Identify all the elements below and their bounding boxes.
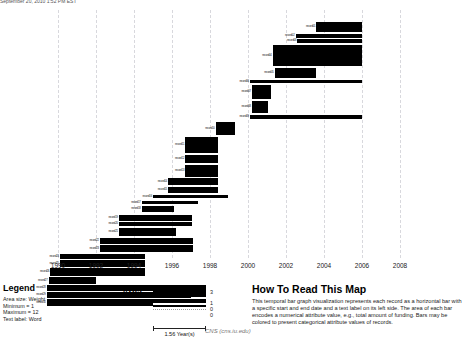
bar-label-11: record11	[175, 143, 184, 146]
bar-label-12: record12	[175, 157, 184, 160]
bar-label-20: record20	[108, 222, 117, 225]
bar-21[interactable]	[119, 228, 176, 236]
bar-label-23: record23	[89, 247, 98, 250]
how-to-read-body: This temporal bar graph visualization re…	[252, 298, 466, 326]
bar-label-1: record01	[306, 25, 315, 28]
bar-label-19: record19	[108, 216, 117, 219]
axis-tick-2000: 2000	[241, 262, 255, 269]
legend-line-minimum: Minimum = 1	[3, 303, 118, 310]
axis-tick-1994: 1994	[127, 262, 141, 269]
bar-label-14: record14	[158, 180, 167, 183]
chart-plot-area: record01record02record03record04record05…	[0, 10, 469, 258]
grid-line-2008	[400, 10, 402, 258]
bar-label-2: record02	[285, 34, 294, 37]
area-value-0b: 0	[210, 313, 213, 318]
grid-line-2006	[362, 10, 364, 258]
header-timestamp-strip: September 20, 2010 1:52 PM EST	[0, 0, 234, 8]
bar-label-15: record15	[158, 188, 167, 191]
bar-label-8: record08	[241, 105, 250, 108]
bar-17[interactable]	[142, 201, 198, 204]
bar-label-9: record09	[239, 115, 248, 118]
area-legend-scale: 1.56 Year(s)	[153, 326, 206, 337]
bar-6[interactable]	[250, 80, 362, 83]
x-axis: 1990199219941996199820002002200420062008	[0, 258, 469, 274]
grid-line-1998	[210, 10, 212, 258]
bar-22[interactable]	[100, 238, 193, 244]
grid-line-2000	[248, 10, 250, 258]
bar-label-5: record05	[264, 71, 273, 74]
bar-7[interactable]	[252, 85, 271, 99]
axis-tick-2008: 2008	[393, 262, 407, 269]
axis-tick-2004: 2004	[317, 262, 331, 269]
bar-20[interactable]	[119, 222, 192, 226]
bar-label-16: record16	[143, 195, 152, 198]
bar-3[interactable]	[297, 39, 362, 43]
bar-13[interactable]	[185, 165, 217, 177]
credit-text: CNS (cns.iu.edu)	[205, 328, 251, 334]
bar-23[interactable]	[100, 245, 193, 252]
bar-label-6: record06	[239, 80, 248, 83]
area-legend-title: Area	[122, 287, 142, 297]
how-to-read-title: How To Read This Map	[252, 283, 466, 295]
header-timestamp: September 20, 2010 1:52 PM EST	[0, 0, 234, 4]
area-swatch-3	[153, 285, 206, 297]
legend-line-text-label: Text label: Word	[3, 316, 118, 323]
bar-label-27: record27	[38, 279, 47, 282]
axis-tick-1992: 1992	[89, 262, 103, 269]
axis-tick-1990: 1990	[51, 262, 65, 269]
bar-label-18: record18	[131, 207, 140, 210]
bar-label-13: record13	[175, 169, 184, 172]
bar-18[interactable]	[142, 206, 174, 212]
bar-4[interactable]	[273, 45, 362, 66]
area-swatch-0b	[153, 309, 206, 310]
bar-label-21: record21	[108, 230, 117, 233]
area-swatch-1	[153, 299, 206, 303]
axis-tick-2006: 2006	[355, 262, 369, 269]
bar-label-7: record07	[241, 90, 250, 93]
area-swatch-0a	[153, 305, 206, 307]
grid-line-1992	[96, 10, 98, 258]
area-value-3: 3	[210, 290, 213, 295]
scale-caption: 1.56 Year(s)	[153, 331, 206, 337]
bar-5[interactable]	[275, 68, 317, 78]
bar-16[interactable]	[153, 195, 228, 198]
bar-1[interactable]	[316, 22, 362, 32]
bar-label-17: record17	[131, 201, 140, 204]
bar-label-3: record03	[287, 39, 296, 42]
bar-11[interactable]	[185, 137, 217, 153]
bar-15[interactable]	[168, 187, 217, 193]
axis-tick-1996: 1996	[165, 262, 179, 269]
legend-title: Legend	[3, 283, 118, 293]
bar-19[interactable]	[119, 215, 192, 221]
how-to-read-panel: How To Read This Map This temporal bar g…	[252, 283, 466, 326]
bar-2[interactable]	[296, 34, 363, 38]
scale-rule	[153, 326, 206, 331]
bar-label-10: record10	[205, 127, 214, 130]
area-legend-swatches	[153, 285, 206, 312]
legend-line-maximum: Maximum = 12	[3, 309, 118, 316]
grid-line-1990	[58, 10, 60, 258]
bar-label-4: record04	[262, 54, 271, 57]
temporal-bar-graph-page: September 20, 2010 1:52 PM EST record01r…	[0, 0, 469, 343]
bar-8[interactable]	[252, 101, 268, 113]
axis-tick-1998: 1998	[203, 262, 217, 269]
legend-panel: Legend Area size: Weight Minimum = 1 Max…	[3, 283, 118, 322]
bar-14[interactable]	[168, 178, 217, 185]
bar-label-22: record22	[89, 239, 98, 242]
axis-tick-2002: 2002	[279, 262, 293, 269]
bar-10[interactable]	[216, 122, 235, 135]
bar-9[interactable]	[250, 115, 362, 119]
legend-line-area-size: Area size: Weight	[3, 296, 118, 303]
bar-12[interactable]	[185, 155, 217, 163]
